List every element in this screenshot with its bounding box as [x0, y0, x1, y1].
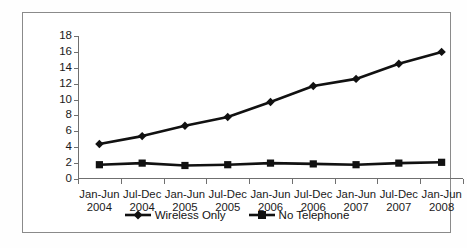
- data-point-marker: [139, 160, 146, 167]
- data-point-marker: [395, 60, 403, 68]
- y-tick-label: 4: [66, 141, 72, 153]
- x-tick: [164, 179, 165, 184]
- chart-frame: 024681012141618 Jan-Jun2004Jul-Dec2004Ja…: [22, 12, 451, 233]
- y-tick-label: 12: [59, 78, 72, 90]
- x-tick: [121, 179, 122, 184]
- legend-label: No Telephone: [279, 209, 350, 221]
- x-tick: [292, 179, 293, 184]
- plot-area: 024681012141618 Jan-Jun2004Jul-Dec2004Ja…: [78, 36, 463, 179]
- y-tick-label: 2: [66, 157, 72, 169]
- series-layer: [78, 36, 463, 179]
- x-tick: [206, 179, 207, 184]
- y-tick-label: 10: [59, 94, 72, 106]
- data-point-marker: [437, 48, 445, 56]
- data-point-marker: [310, 160, 317, 167]
- x-tick: [420, 179, 421, 184]
- y-tick-label: 16: [59, 46, 72, 58]
- y-tick-label: 8: [66, 110, 72, 122]
- legend-item-wireless-only[interactable]: Wireless Only: [124, 209, 226, 221]
- data-point-marker: [266, 98, 274, 106]
- data-point-marker: [95, 140, 103, 148]
- y-tick-label: 0: [66, 173, 72, 185]
- data-point-marker: [224, 161, 231, 168]
- data-point-marker: [352, 161, 359, 168]
- data-point-marker: [181, 162, 188, 169]
- chart-legend: Wireless OnlyNo Telephone: [23, 209, 450, 221]
- data-point-marker: [96, 161, 103, 168]
- data-point-marker: [309, 82, 317, 90]
- data-point-marker: [395, 160, 402, 167]
- x-tick: [249, 179, 250, 184]
- y-tick-label: 14: [59, 62, 72, 74]
- x-tick: [78, 179, 79, 184]
- data-point-marker: [138, 132, 146, 140]
- x-tick: [335, 179, 336, 184]
- legend-label: Wireless Only: [155, 209, 226, 221]
- data-point-marker: [352, 75, 360, 83]
- chart-container: 024681012141618 Jan-Jun2004Jul-Dec2004Ja…: [0, 0, 467, 248]
- data-point-marker: [438, 159, 445, 166]
- diamond-marker-icon: [124, 209, 152, 221]
- data-point-marker: [181, 122, 189, 130]
- data-point-marker: [224, 113, 232, 121]
- data-point-marker: [267, 160, 274, 167]
- x-tick: [377, 179, 378, 184]
- y-tick-label: 6: [66, 126, 72, 138]
- legend-item-no-telephone[interactable]: No Telephone: [248, 209, 350, 221]
- square-marker-icon: [248, 209, 276, 221]
- x-tick: [463, 179, 464, 184]
- y-tick-label: 18: [59, 30, 72, 42]
